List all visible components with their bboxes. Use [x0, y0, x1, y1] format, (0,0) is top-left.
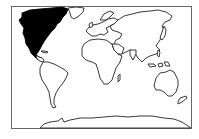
region-central-america — [36, 55, 44, 62]
region-indonesia — [148, 62, 170, 67]
region-new-zealand — [178, 96, 187, 104]
region-greenland — [68, 7, 84, 19]
region-caribbean — [41, 51, 48, 53]
world-map-svg — [0, 0, 199, 139]
region-madagascar — [118, 74, 120, 82]
region-india — [130, 50, 136, 60]
region-south-america — [40, 62, 68, 108]
region-australia — [154, 70, 178, 96]
world-map — [0, 0, 199, 139]
region-antarctica — [40, 116, 191, 128]
region-philippines — [157, 50, 160, 57]
